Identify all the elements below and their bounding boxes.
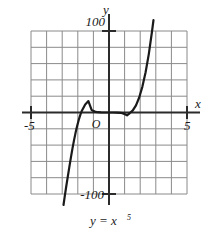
origin-label: O	[92, 117, 101, 131]
equation-label: y = x	[88, 213, 117, 228]
x-axis-label: x	[194, 96, 201, 111]
function-graph-figure: 100 -100 -5 5 y x O y = x 5	[0, 0, 213, 237]
y-axis-label: y	[101, 2, 109, 17]
x-tick-label-negative-five: -5	[24, 118, 35, 133]
y-tick-label-negative-hundred: -100	[80, 187, 104, 202]
equation-exponent: 5	[127, 213, 131, 222]
x-tick-label-positive-five: 5	[184, 118, 191, 133]
